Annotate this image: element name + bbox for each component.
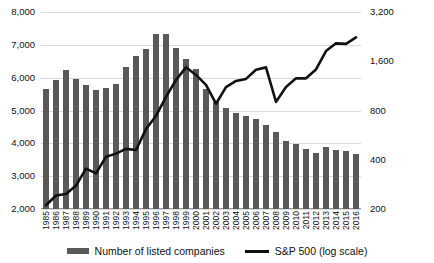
x-axis-tick-2013: 2013 [322, 211, 331, 230]
chart-container: 2,0003,0004,0005,0006,0007,0008,000 2004… [0, 0, 434, 263]
left-axis-tick-8000: 8,000 [11, 7, 35, 17]
gridline [41, 209, 361, 210]
x-axis-tick-2000: 2000 [192, 211, 201, 230]
chart-legend: Number of listed companies S&P 500 (log … [0, 241, 434, 261]
line-swatch-icon [245, 250, 269, 253]
legend-item-line: S&P 500 (log scale) [245, 245, 368, 257]
x-axis-tick-1989: 1989 [82, 211, 91, 230]
left-axis-tick-3000: 3,000 [11, 171, 35, 181]
x-axis-tick-2005: 2005 [242, 211, 251, 230]
x-axis-tick-1996: 1996 [152, 211, 161, 230]
x-axis-tick-1986: 1986 [52, 211, 61, 230]
x-axis-tick-2007: 2007 [262, 211, 271, 230]
left-axis-tick-4000: 4,000 [11, 138, 35, 148]
legend-label-line: S&P 500 (log scale) [275, 245, 368, 257]
bar-swatch-icon [67, 248, 89, 254]
right-axis-tick-3200: 3,200 [370, 7, 394, 17]
x-axis-tick-1994: 1994 [132, 211, 141, 230]
x-axis-tick-2015: 2015 [342, 211, 351, 230]
line-series [41, 12, 361, 209]
x-axis-tick-2014: 2014 [332, 211, 341, 230]
x-axis-tick-2001: 2001 [202, 211, 211, 230]
x-axis-tick-1991: 1991 [102, 211, 111, 230]
x-axis-tick-2003: 2003 [222, 211, 231, 230]
x-axis-tick-2012: 2012 [312, 211, 321, 230]
left-axis-tick-6000: 6,000 [11, 73, 35, 83]
x-axis-tick-1988: 1988 [72, 211, 81, 230]
x-axis-tick-1999: 1999 [182, 211, 191, 230]
x-axis-tick-2004: 2004 [232, 211, 241, 230]
x-axis-tick-2011: 2011 [302, 211, 311, 229]
left-axis-tick-7000: 7,000 [11, 40, 35, 50]
x-axis-tick-2008: 2008 [272, 211, 281, 230]
left-axis-tick-2000: 2,000 [11, 204, 35, 214]
right-axis-tick-400: 400 [370, 155, 386, 165]
right-axis-tick-200: 200 [370, 204, 386, 214]
legend-item-bars: Number of listed companies [67, 245, 225, 257]
x-axis-tick-1993: 1993 [122, 211, 131, 230]
left-axis-tick-5000: 5,000 [11, 106, 35, 116]
x-axis-tick-1985: 1985 [42, 211, 51, 230]
x-axis-tick-1998: 1998 [172, 211, 181, 230]
x-axis-tick-1987: 1987 [62, 211, 71, 230]
x-axis-tick-2006: 2006 [252, 211, 261, 230]
x-axis-tick-1997: 1997 [162, 211, 171, 230]
left-axis: 2,0003,0004,0005,0006,0007,0008,000 [0, 0, 38, 209]
x-axis-tick-2010: 2010 [292, 211, 301, 230]
legend-label-bars: Number of listed companies [95, 245, 225, 257]
right-axis: 2004008001,6003,200 [363, 0, 434, 209]
right-axis-tick-1600: 1,600 [370, 56, 394, 66]
x-axis-tick-2002: 2002 [212, 211, 221, 230]
x-axis-tick-2009: 2009 [282, 211, 291, 230]
x-axis-tick-2016: 2016 [352, 211, 361, 230]
x-axis-tick-1995: 1995 [142, 211, 151, 230]
x-axis-labels: 1985198619871988198919901991199219931994… [41, 211, 361, 241]
x-axis-tick-1990: 1990 [92, 211, 101, 230]
plot-area [41, 12, 361, 209]
x-axis-tick-1992: 1992 [112, 211, 121, 230]
right-axis-tick-800: 800 [370, 106, 386, 116]
